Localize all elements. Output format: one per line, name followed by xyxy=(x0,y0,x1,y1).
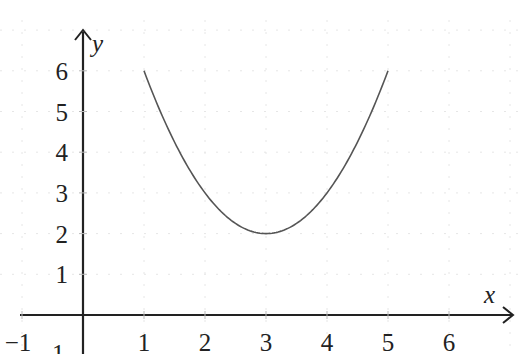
x-tick-labels: −1123456 xyxy=(5,329,456,354)
y-tick-labels: 123456 xyxy=(56,58,69,288)
x-tick-label: 5 xyxy=(382,329,395,354)
axes xyxy=(20,30,513,354)
grid-lines xyxy=(0,20,520,354)
y-tick-label: 1 xyxy=(56,261,69,288)
y-tick-label: 6 xyxy=(56,58,69,85)
y-axis-label: y xyxy=(89,30,104,57)
y-tick-label: 4 xyxy=(56,139,69,166)
x-tick-label: 4 xyxy=(321,329,334,354)
y-tick-label: 2 xyxy=(56,221,69,248)
x-tick-label: 3 xyxy=(260,329,273,354)
tick-marks xyxy=(22,71,449,319)
y-tick-label: 5 xyxy=(56,99,69,126)
x-tick-label: 2 xyxy=(199,329,212,354)
x-axis-label: x xyxy=(483,281,495,308)
x-tick-label: −1 xyxy=(5,329,32,354)
x-tick-label: 6 xyxy=(443,329,456,354)
x-tick-label: 1 xyxy=(138,329,151,354)
origin-partial-label: 1 xyxy=(52,340,65,354)
parabola-chart: −1123456 123456 1 x y xyxy=(0,0,520,354)
y-tick-label: 3 xyxy=(56,180,69,207)
